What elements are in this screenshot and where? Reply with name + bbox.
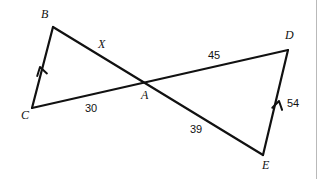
- side-label-x: X: [98, 38, 105, 50]
- side-label-39: 39: [190, 124, 202, 135]
- segment-be: [53, 27, 263, 155]
- right-edge-border: [316, 0, 317, 179]
- vertex-label-c: C: [21, 109, 29, 121]
- side-label-54: 54: [287, 98, 299, 109]
- vertex-label-e: E: [262, 159, 269, 171]
- side-label-30: 30: [85, 103, 97, 114]
- triangles-figure: [0, 0, 322, 179]
- segment-bc: [32, 27, 53, 108]
- geometry-diagram-canvas: B C A D E X 30 45 39 54: [0, 0, 322, 179]
- segment-de: [263, 50, 288, 155]
- vertex-label-b: B: [41, 8, 48, 20]
- segment-cd: [32, 50, 288, 108]
- vertex-label-a: A: [141, 89, 148, 101]
- vertex-label-d: D: [285, 29, 294, 41]
- side-label-45: 45: [208, 50, 220, 61]
